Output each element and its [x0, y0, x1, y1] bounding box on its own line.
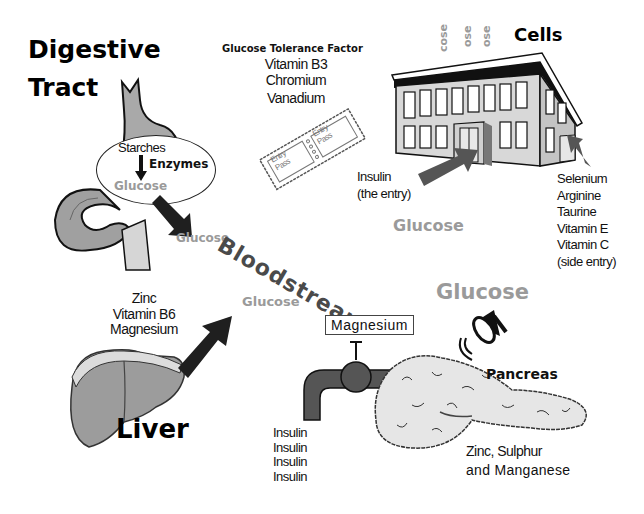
pancreas-glucose-label: Glucose [436, 280, 529, 304]
insulin-label-line: (the entry) [357, 187, 411, 202]
side-entry-item: Taurine [557, 205, 616, 220]
insulin-output-item: Insulin [273, 426, 307, 441]
down-arrow-icon [135, 155, 147, 181]
insulin-entry-label: Insulin (the entry) [357, 170, 411, 201]
side-entry-arrow-icon [563, 135, 593, 173]
insulin-entry-arrow-icon [418, 142, 480, 188]
pancreas-nutrient-line: Zinc, Sulphur [466, 444, 570, 460]
pancreas-nutrient-line: and Manganese [466, 463, 570, 479]
insulin-output-item: Insulin [273, 455, 307, 470]
side-entry-item: Vitamin C [557, 238, 616, 253]
liver-glucose-label: Glucose [242, 294, 300, 309]
liver-glucose-arrow-icon [176, 314, 236, 380]
gtf-title: Glucose Tolerance Factor [222, 43, 363, 54]
gtf-item: Chromium [246, 73, 346, 89]
side-entry-item: Selenium [557, 172, 616, 187]
rising-glucose-2: ose [461, 25, 474, 47]
insulin-label-line: Insulin [357, 170, 411, 185]
side-entry-nutrients: Selenium Arginine Taurine Vitamin E Vita… [557, 172, 616, 269]
side-entry-item: (side entry) [557, 255, 616, 270]
ellipse-glucose-label: Glucose [114, 179, 167, 193]
liver-title: Liver [116, 414, 189, 444]
rising-glucose-3: ose [480, 25, 493, 47]
pancreas-illustration [372, 350, 592, 450]
gtf-item: Vitamin B3 [246, 57, 346, 73]
enzymes-label: Enzymes [149, 157, 208, 171]
side-entry-item: Vitamin E [557, 222, 616, 237]
starches-label: Starches [118, 140, 165, 155]
liver-nutrient: Zinc [96, 291, 192, 307]
insulin-output-list: Insulin Insulin Insulin Insulin [273, 426, 307, 484]
gtf-items: Vitamin B3 Chromium Vanadium [246, 57, 346, 107]
pancreas-title: Pancreas [486, 366, 558, 382]
magnesium-valve-label: Magnesium [325, 315, 414, 335]
pancreas-nutrients: Zinc, Sulphur and Manganese [466, 444, 570, 478]
insulin-output-item: Insulin [273, 441, 307, 456]
cells-glucose-label: Glucose [393, 216, 464, 235]
digestive-title-line1: Digestive [28, 34, 161, 66]
insulin-output-item: Insulin [273, 470, 307, 485]
cells-title: Cells [514, 24, 562, 45]
side-entry-item: Arginine [557, 189, 616, 204]
entry-pass-tickets-icon [256, 110, 371, 190]
gtf-item: Vanadium [246, 91, 346, 107]
